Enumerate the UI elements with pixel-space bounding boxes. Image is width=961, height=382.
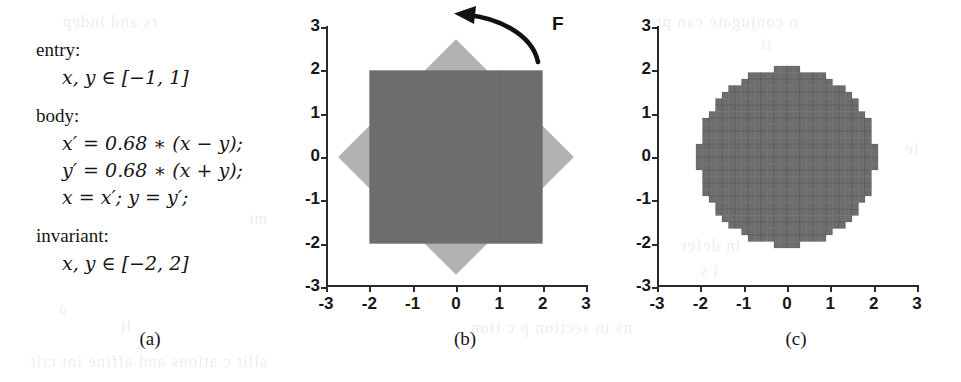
raster-cell [852, 112, 859, 119]
raster-cell [800, 183, 807, 190]
raster-cell [794, 216, 801, 223]
raster-cell [787, 222, 794, 229]
raster-cell [755, 131, 762, 138]
raster-cell [755, 183, 762, 190]
raster-cell [703, 151, 710, 158]
raster-cell [839, 177, 846, 184]
raster-cell [826, 196, 833, 203]
raster-cell [768, 99, 775, 106]
raster-cell [833, 118, 840, 125]
raster-cell [820, 170, 827, 177]
raster-cell [716, 164, 723, 171]
raster-cell [820, 86, 827, 93]
spacer [36, 211, 286, 222]
raster-cell [735, 99, 742, 106]
raster-cell [800, 222, 807, 229]
raster-cell [813, 229, 820, 236]
raster-cell [820, 164, 827, 171]
raster-cell [813, 164, 820, 171]
raster-cell [716, 183, 723, 190]
raster-cell [807, 209, 814, 216]
raster-cell [716, 151, 723, 158]
raster-cell [781, 138, 788, 145]
raster-cell [826, 105, 833, 112]
raster-cell [813, 183, 820, 190]
raster-cell [820, 177, 827, 184]
raster-cell [722, 203, 729, 210]
plot-c-shapes [657, 27, 917, 287]
raster-cell [833, 86, 840, 93]
raster-cell [807, 99, 814, 106]
raster-cell [813, 92, 820, 99]
raster-cell [833, 190, 840, 197]
y-tick-label: 0 [623, 146, 651, 166]
raster-cell [729, 138, 736, 145]
raster-cell [703, 144, 710, 151]
raster-cell [748, 99, 755, 106]
raster-cell [774, 209, 781, 216]
raster-cell [852, 105, 859, 112]
y-tick-label: 2 [292, 59, 320, 79]
raster-cell [748, 79, 755, 86]
raster-cell [748, 170, 755, 177]
raster-cell [742, 203, 749, 210]
raster-cell [813, 105, 820, 112]
transformer-arrow [468, 15, 538, 62]
raster-cell [794, 73, 801, 80]
raster-cell [826, 216, 833, 223]
raster-cell [852, 144, 859, 151]
raster-cell [768, 177, 775, 184]
raster-cell [852, 157, 859, 164]
raster-cell [826, 144, 833, 151]
raster-cell [807, 235, 814, 242]
raster-cell [709, 131, 716, 138]
raster-cell [846, 138, 853, 145]
y-tick-label: 3 [292, 16, 320, 36]
raster-cell [735, 138, 742, 145]
raster-cell [716, 131, 723, 138]
raster-cell [807, 157, 814, 164]
raster-cell [865, 138, 872, 145]
raster-cell [716, 170, 723, 177]
raster-cell [729, 86, 736, 93]
raster-cell [813, 125, 820, 132]
raster-cell [865, 131, 872, 138]
raster-cell [742, 125, 749, 132]
raster-cell [865, 151, 872, 158]
raster-cell [826, 99, 833, 106]
raster-cell [839, 209, 846, 216]
raster-cell [826, 131, 833, 138]
raster-cell [787, 92, 794, 99]
raster-cell [800, 164, 807, 171]
raster-cell [839, 164, 846, 171]
raster-cell [787, 157, 794, 164]
raster-cell [794, 235, 801, 242]
raster-cell [781, 131, 788, 138]
raster-cell [833, 105, 840, 112]
raster-cell [735, 164, 742, 171]
raster-cell [729, 164, 736, 171]
raster-cell [722, 196, 729, 203]
raster-cell [748, 138, 755, 145]
panel-caption-a: (a) [0, 328, 300, 350]
raster-cell [846, 125, 853, 132]
raster-cell [748, 118, 755, 125]
raster-cell [722, 99, 729, 106]
raster-cell [859, 138, 866, 145]
raster-cell [787, 242, 794, 249]
raster-cell [722, 183, 729, 190]
raster-cell [748, 151, 755, 158]
raster-cell [826, 118, 833, 125]
raster-cell [826, 112, 833, 119]
y-tick-label: 1 [623, 103, 651, 123]
raster-cell [852, 190, 859, 197]
x-tick-mark [917, 286, 919, 292]
raster-cell [833, 222, 840, 229]
raster-cell [774, 164, 781, 171]
raster-cell [813, 190, 820, 197]
raster-cell [826, 203, 833, 210]
raster-cell [774, 183, 781, 190]
raster-cell [716, 203, 723, 210]
raster-cell [865, 170, 872, 177]
raster-cell [859, 112, 866, 119]
